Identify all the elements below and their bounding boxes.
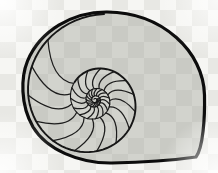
shell-body-fill <box>23 12 205 163</box>
nautilus-shell-illustration <box>0 0 218 173</box>
transparency-checkerboard-background <box>0 0 218 173</box>
